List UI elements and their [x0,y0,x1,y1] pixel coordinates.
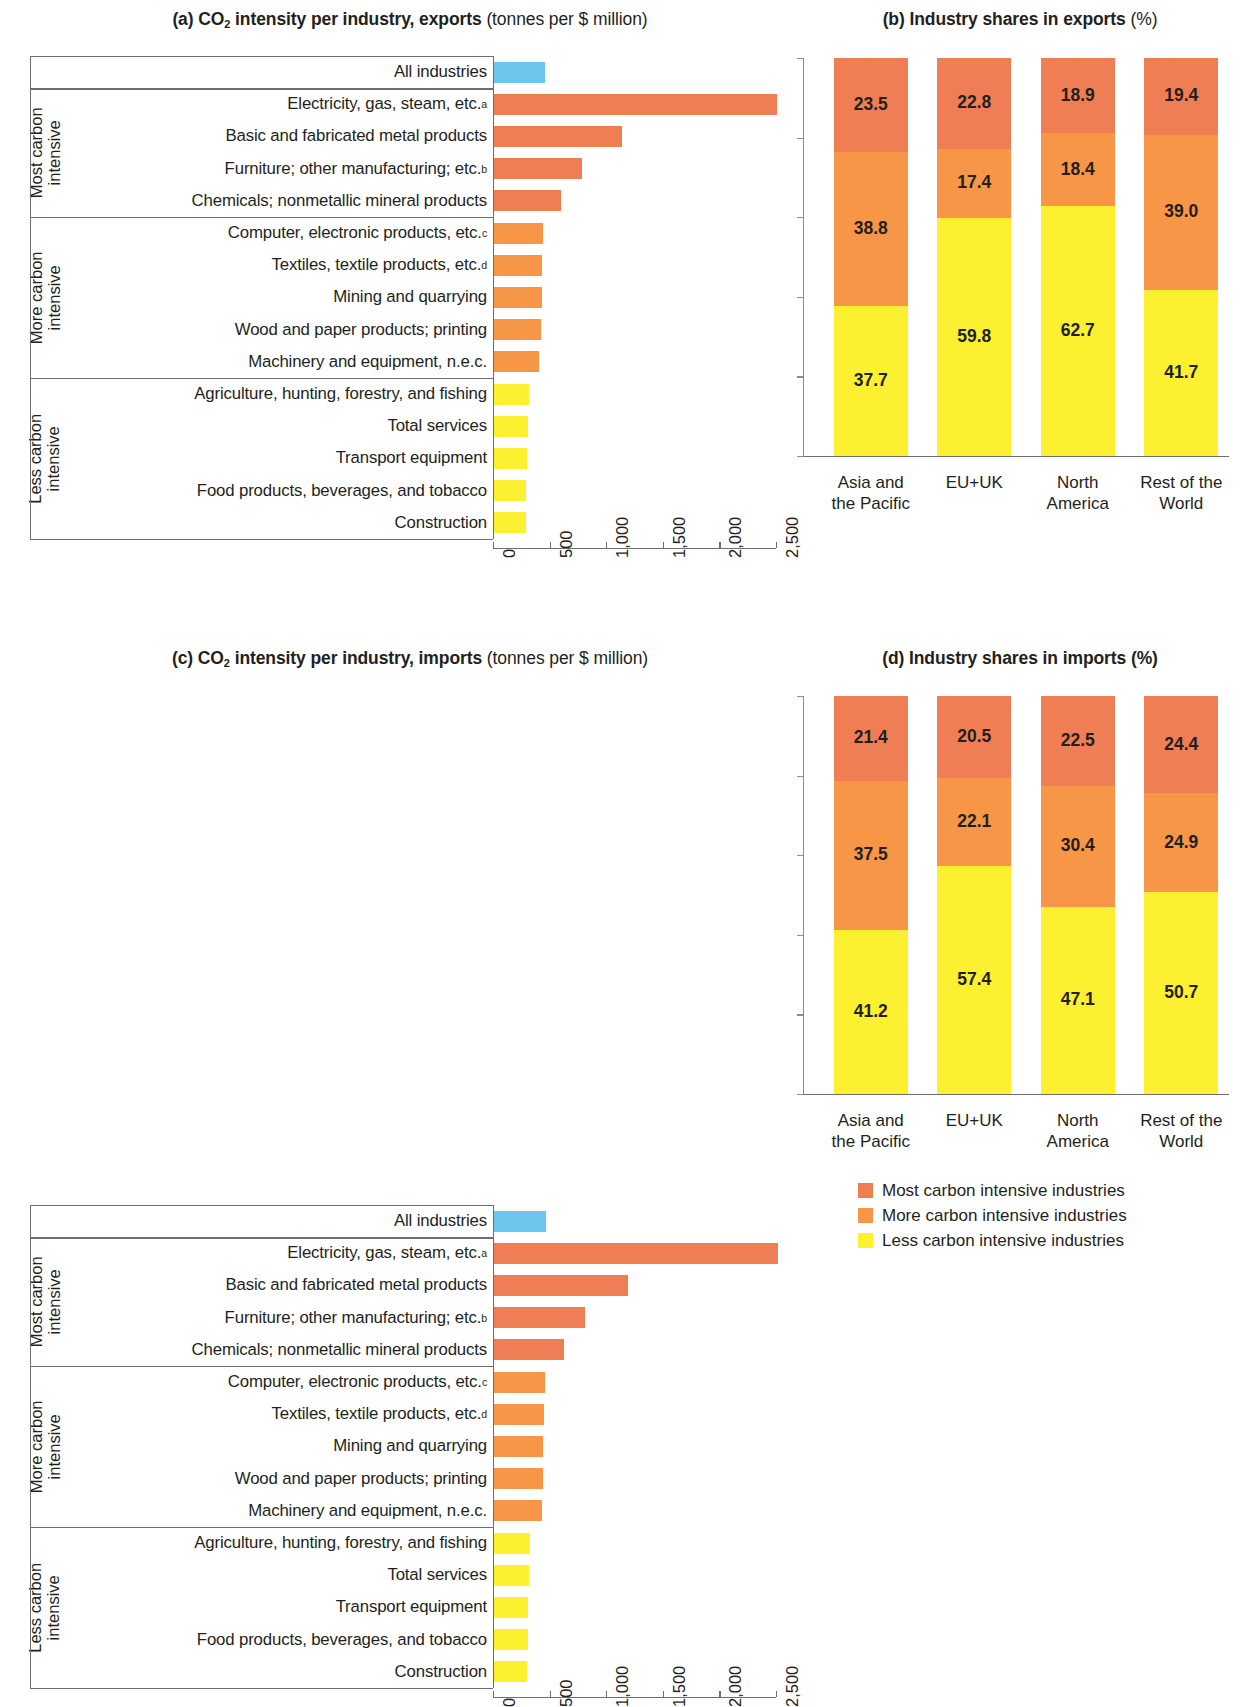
stack-segment-value: 24.4 [1144,734,1218,755]
x-axis-tick [776,1691,777,1697]
stack-segment-value: 62.7 [1041,320,1115,341]
stacked-bar: 59.817.422.8 [937,58,1011,456]
bar [493,1565,529,1586]
category-label: Wood and paper products; printing [76,1463,493,1495]
x-axis-baseline [803,456,1229,457]
y-axis-tick [797,855,804,856]
stack-segment-value: 38.8 [834,218,908,239]
category-label: Total services [76,1559,493,1591]
panel-d-title: (d) Industry shares in imports (%) [800,648,1240,669]
stacked-bar: 41.739.019.4 [1144,58,1218,456]
x-axis-tick [550,1691,551,1697]
legend-label: Most carbon intensive industries [882,1181,1125,1201]
bar [493,126,622,147]
legend-item: Most carbon intensive industries [858,1178,1127,1203]
group-label-most: Most carbonintensive [14,1237,76,1366]
bar [493,1597,528,1618]
panel-b-title-light: (%) [1130,9,1157,29]
category-label: Wood and paper products; printing [76,314,493,346]
stack-segment-value: 17.4 [937,172,1011,193]
x-axis-tick [776,542,777,548]
group-label-text: Most carbonintensive [27,1256,63,1347]
panel-b-title-bold: Industry shares in exports [909,9,1125,29]
legend-swatch [858,1208,873,1223]
stacked-bar: 41.237.521.4 [834,696,908,1094]
panel-a-title-bold: CO2 intensity per industry, exports [198,9,481,29]
group-label-more: More carbonintensive [14,217,76,378]
y-axis-tick [797,376,804,377]
panel-c-title-bold: CO2 intensity per industry, imports [198,648,482,668]
stack-segment-value: 41.2 [834,1001,908,1022]
bar [493,1211,546,1232]
x-axis-tick [663,542,664,548]
x-axis-tick [606,542,607,548]
stack-segment-value: 21.4 [834,727,908,748]
bar [493,158,582,179]
bar [493,416,528,437]
category-axis-label: Asia andthe Pacific [815,472,927,515]
panel-c-label: (c) [172,648,193,668]
panel-b-label: (b) [883,9,905,29]
x-axis-baseline [803,1094,1229,1095]
group-label-most: Most carbonintensive [14,88,76,217]
stack-segment-value: 20.5 [937,726,1011,747]
panel-a-chart: Most carbonintensiveMore carbonintensive… [14,44,800,554]
x-axis-tick-label: 1,500 [670,517,689,558]
category-label: Agriculture, hunting, forestry, and fish… [76,378,493,410]
stack-segment-value: 19.4 [1144,85,1218,106]
x-axis-tick-label: 500 [557,530,576,558]
bar [493,480,526,501]
bar [493,1468,543,1489]
bar [493,1339,564,1360]
x-axis-tick [493,542,494,548]
category-label: Agriculture, hunting, forestry, and fish… [76,1527,493,1559]
stack-segment-value: 50.7 [1144,982,1218,1003]
category-label: Basic and fabricated metal products [76,120,493,152]
group-label-text: Less carbonintensive [27,414,63,504]
label-box-right-edge [493,1205,494,1688]
category-label: Textiles, textile products, etc.d [76,1398,493,1430]
bar [493,319,541,340]
stack-segment-value: 37.5 [834,844,908,865]
category-label: Chemicals; nonmetallic mineral products [76,1334,493,1366]
group-label-less: Less carbonintensive [14,378,76,539]
panel-a-title: (a) CO2 intensity per industry, exports … [20,9,800,30]
panel-d-chart: 41.237.521.4Asia andthe Pacific57.422.12… [795,690,1240,1170]
label-box-left-edge [30,1205,31,1688]
category-label: All industries [76,1205,493,1237]
stack-segment-value: 57.4 [937,969,1011,990]
category-label: Transport equipment [76,442,493,474]
stacked-bar: 62.718.418.9 [1041,58,1115,456]
bar [493,1500,542,1521]
divider-rule [30,1366,493,1367]
divider-rule [30,378,493,379]
y-axis-line [803,696,804,1094]
x-axis-tick-label: 2,000 [726,517,745,558]
category-label: Food products, beverages, and tobacco [76,1624,493,1656]
category-label: Furniture; other manufacturing; etc.b [76,153,493,185]
stack-segment-value: 18.4 [1041,159,1115,180]
bar [493,448,527,469]
bar [493,1533,530,1554]
x-axis-tick-label: 2,500 [783,1666,802,1707]
category-label: Total services [76,410,493,442]
divider-rule [30,1527,493,1528]
divider-rule [30,1205,493,1206]
panel-c-chart: Most carbonintensiveMore carbonintensive… [14,1193,800,1703]
category-axis-label: Rest of theWorld [1126,1110,1238,1153]
category-label: All industries [76,56,493,88]
y-axis-tick [797,297,804,298]
stack-segment-value: 22.8 [937,92,1011,113]
stack-segment-value: 22.1 [937,811,1011,832]
bar [493,223,543,244]
category-axis-label: Asia andthe Pacific [815,1110,927,1153]
category-label: Mining and quarrying [76,281,493,313]
panel-c-title-light: (tonnes per $ million) [487,648,648,668]
category-label: Electricity, gas, steam, etc.a [76,1237,493,1269]
bar [493,1307,585,1328]
y-axis-tick [797,138,804,139]
x-axis-tick-label: 0 [500,1698,519,1707]
bar [493,190,561,211]
label-box-right-edge [493,56,494,539]
category-axis-label: NorthAmerica [1022,1110,1134,1153]
